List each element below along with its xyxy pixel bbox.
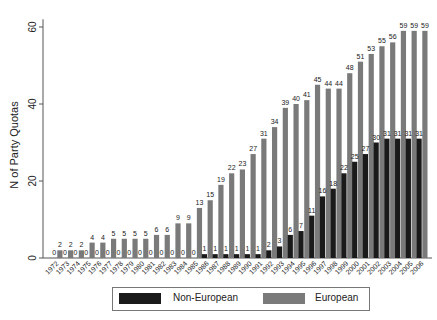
- bar-non-european: [331, 189, 336, 258]
- bar-non-european: [320, 196, 325, 258]
- value-label: 1: [245, 245, 249, 252]
- bar-european: [122, 239, 127, 258]
- value-label: 51: [357, 53, 365, 60]
- bar-european: [390, 42, 395, 258]
- legend: Non-European European: [112, 287, 370, 311]
- value-label: 31: [404, 130, 412, 137]
- bar-european: [90, 243, 95, 258]
- value-label: 1: [213, 245, 217, 252]
- value-label: 23: [239, 160, 247, 167]
- bar-non-european: [245, 254, 250, 258]
- value-label: 4: [101, 234, 105, 241]
- bar-european: [240, 169, 245, 258]
- y-axis-label: N of Party Quotas: [8, 101, 20, 189]
- bar-non-european: [384, 139, 389, 258]
- value-label: 16: [319, 187, 327, 194]
- value-label: 0: [63, 249, 67, 256]
- bar-european: [326, 89, 331, 258]
- value-label: 0: [84, 249, 88, 256]
- bar-non-european: [288, 235, 293, 258]
- bar-european: [208, 200, 213, 258]
- bar-european: [111, 239, 116, 258]
- value-label: 5: [144, 230, 148, 237]
- bar-european: [369, 54, 374, 258]
- value-label: 5: [122, 230, 126, 237]
- value-label: 2: [58, 241, 62, 248]
- y-tick-label: 60: [27, 21, 38, 33]
- value-label: 27: [249, 145, 257, 152]
- bar-european: [57, 250, 62, 258]
- value-label: 56: [389, 33, 397, 40]
- value-label: 59: [421, 22, 429, 29]
- legend-swatch-european: [263, 293, 305, 304]
- value-label: 0: [170, 249, 174, 256]
- value-label: 6: [155, 226, 159, 233]
- bar-european: [347, 73, 352, 258]
- bar-european: [165, 235, 170, 258]
- bar-european: [175, 223, 180, 258]
- value-label: 0: [138, 249, 142, 256]
- value-label: 0: [74, 249, 78, 256]
- value-label: 5: [133, 230, 137, 237]
- bar-european: [401, 31, 406, 258]
- legend-label-european: European: [315, 292, 358, 303]
- bar-non-european: [417, 139, 422, 258]
- value-label: 22: [228, 164, 236, 171]
- value-label: 53: [367, 45, 375, 52]
- bar-non-european: [223, 254, 228, 258]
- bar-non-european: [363, 154, 368, 258]
- bar-european: [79, 250, 84, 258]
- bar-european: [422, 31, 427, 258]
- value-label: 31: [383, 130, 391, 137]
- y-tick-label: 0: [27, 255, 38, 261]
- value-label: 1: [202, 245, 206, 252]
- value-label: 1: [256, 245, 260, 252]
- value-label: 9: [176, 214, 180, 221]
- value-label: 11: [308, 207, 315, 214]
- value-label: 1: [235, 245, 239, 252]
- value-label: 6: [288, 226, 292, 233]
- x-tick-labels: 1972197319741975197619771978197919801981…: [44, 260, 425, 276]
- value-label: 0: [127, 249, 131, 256]
- bar-european: [68, 250, 73, 258]
- value-label: 27: [362, 145, 370, 152]
- bar-non-european: [352, 162, 357, 258]
- value-label: 22: [340, 164, 348, 171]
- value-label: 31: [415, 130, 423, 137]
- bar-non-european: [298, 231, 303, 258]
- bar-chart: 0204060 02020204040505050506060909013115…: [0, 0, 437, 320]
- bar-european: [304, 100, 309, 258]
- value-label: 55: [378, 37, 386, 44]
- value-label: 39: [281, 99, 289, 106]
- value-label: 3: [278, 237, 282, 244]
- bar-european: [412, 31, 417, 258]
- bar-european: [272, 127, 277, 258]
- value-label: 0: [181, 249, 185, 256]
- value-label: 0: [52, 249, 56, 256]
- value-label: 0: [106, 249, 110, 256]
- bar-non-european: [266, 250, 271, 258]
- bar-european: [197, 208, 202, 258]
- value-label: 2: [69, 241, 73, 248]
- value-label: 0: [192, 249, 196, 256]
- value-label: 40: [292, 95, 300, 102]
- bar-european: [132, 239, 137, 258]
- value-label: 45: [314, 76, 322, 83]
- value-label: 1: [224, 245, 228, 252]
- bar-european: [251, 154, 256, 258]
- bar-non-european: [374, 143, 379, 259]
- value-label: 4: [90, 234, 94, 241]
- value-label: 0: [95, 249, 99, 256]
- bars: [57, 31, 427, 258]
- value-label: 9: [187, 214, 191, 221]
- legend-label-non-european: Non-European: [173, 292, 238, 303]
- bar-european: [293, 104, 298, 258]
- value-label: 18: [329, 180, 337, 187]
- value-label: 31: [394, 130, 402, 137]
- value-label: 34: [271, 118, 279, 125]
- y-tick-label: 20: [27, 175, 38, 187]
- bar-european: [100, 243, 105, 258]
- value-label: 19: [217, 176, 225, 183]
- bar-european: [154, 235, 159, 258]
- value-label: 44: [324, 80, 332, 87]
